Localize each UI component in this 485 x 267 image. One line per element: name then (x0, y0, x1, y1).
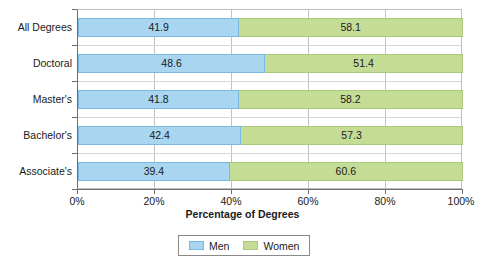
bar-row: 41.9 58.1 (78, 18, 463, 37)
y-axis-label-associates: Associate's (0, 165, 72, 177)
bar-segment-women[interactable]: 58.1 (239, 18, 463, 37)
x-axis-tick (231, 189, 232, 194)
legend-swatch-men-icon (189, 241, 204, 250)
x-axis-tick-label-60: 60% (285, 195, 331, 207)
bar-segment-men[interactable]: 41.9 (78, 18, 239, 37)
row-separator (78, 117, 461, 118)
legend-item-women[interactable]: Women (243, 240, 299, 252)
y-axis-label-masters: Master's (0, 93, 72, 105)
legend-label-men: Men (209, 240, 229, 252)
stacked-bar-chart: 41.9 58.1 48.6 51.4 41.8 58.2 (0, 0, 485, 267)
x-axis-tick (462, 189, 463, 194)
y-axis-label-all-degrees: All Degrees (0, 21, 72, 33)
legend-swatch-women-icon (243, 241, 258, 250)
bar-value-label: 42.4 (149, 130, 169, 141)
y-axis-tick (72, 9, 77, 10)
row-separator (78, 81, 461, 82)
chart-legend: Men Women (178, 235, 310, 256)
bar-row: 48.6 51.4 (78, 54, 463, 73)
plot-area: 41.9 58.1 48.6 51.4 41.8 58.2 (77, 9, 462, 189)
bar-segment-women[interactable]: 57.3 (241, 126, 463, 145)
x-axis-tick (77, 189, 78, 194)
y-axis-label-bachelors: Bachelor's (0, 129, 72, 141)
bar-value-label: 58.2 (340, 94, 360, 105)
bar-value-label: 57.3 (341, 130, 361, 141)
bar-row: 39.4 60.6 (78, 162, 463, 181)
x-axis-tick-label-40: 40% (208, 195, 254, 207)
x-axis-title: Percentage of Degrees (0, 208, 485, 220)
bar-row: 41.8 58.2 (78, 90, 463, 109)
bar-value-label: 39.4 (144, 166, 164, 177)
x-axis-tick-label-80: 80% (362, 195, 408, 207)
bar-value-label: 41.8 (148, 94, 168, 105)
bar-value-label: 41.9 (148, 22, 168, 33)
bar-segment-men[interactable]: 48.6 (78, 54, 265, 73)
x-axis-tick-label-100: 100% (438, 195, 484, 207)
x-axis-tick (385, 189, 386, 194)
bar-segment-men[interactable]: 39.4 (78, 162, 230, 181)
bar-segment-women[interactable]: 58.2 (239, 90, 463, 109)
bar-value-label: 51.4 (353, 58, 373, 69)
x-axis-tick (308, 189, 309, 194)
bar-segment-men[interactable]: 41.8 (78, 90, 239, 109)
bar-value-label: 48.6 (161, 58, 181, 69)
y-axis-tick (72, 153, 77, 154)
bar-value-label: 60.6 (336, 166, 356, 177)
row-separator (78, 153, 461, 154)
legend-item-men[interactable]: Men (189, 240, 229, 252)
y-axis-tick (72, 45, 77, 46)
bar-segment-women[interactable]: 60.6 (230, 162, 463, 181)
legend-label-women: Women (263, 240, 299, 252)
row-separator (78, 45, 461, 46)
y-axis-label-doctoral: Doctoral (0, 57, 72, 69)
x-axis-tick (154, 189, 155, 194)
bar-row: 42.4 57.3 (78, 126, 463, 145)
bar-segment-men[interactable]: 42.4 (78, 126, 241, 145)
bar-segment-women[interactable]: 51.4 (265, 54, 463, 73)
x-axis-tick-label-20: 20% (131, 195, 177, 207)
x-axis-line (77, 189, 462, 190)
x-axis-tick-label-0: 0% (54, 195, 100, 207)
bar-value-label: 58.1 (340, 22, 360, 33)
y-axis-tick (72, 81, 77, 82)
y-axis-tick (72, 117, 77, 118)
